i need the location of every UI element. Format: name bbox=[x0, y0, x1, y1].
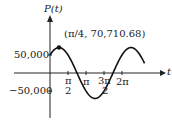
max-point-label: (π/4, 70,710.68) bbox=[64, 28, 145, 39]
x-tick-2pi: 2π bbox=[116, 76, 129, 87]
x-axis-label: t bbox=[167, 66, 171, 77]
max-point bbox=[57, 45, 61, 49]
x-tick-pi: π bbox=[83, 76, 90, 87]
y-tick-neg-50000: −50,000 bbox=[9, 85, 52, 96]
chart-svg bbox=[0, 0, 172, 127]
x-tick-3pi-half-den: 2 bbox=[102, 85, 108, 96]
y-tick-50000: 50,000 bbox=[14, 49, 49, 60]
y-axis-arrow-icon bbox=[47, 15, 53, 22]
x-axis-arrow-icon bbox=[160, 70, 166, 76]
x-tick-pi-half-den: 2 bbox=[65, 85, 71, 96]
y-axis-label: P(t) bbox=[44, 3, 63, 14]
